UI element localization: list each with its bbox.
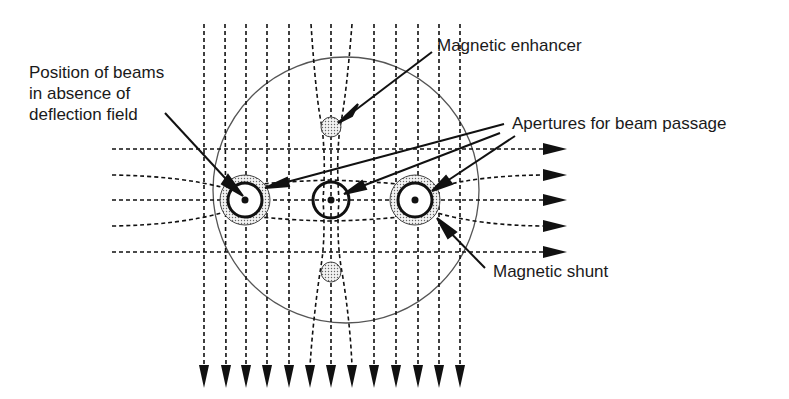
beam-position-line-1: Position of beams	[29, 62, 164, 83]
leader-lines	[165, 52, 515, 268]
apertures-label: Apertures for beam passage	[512, 113, 727, 134]
magnetic-enhancer-label: Magnetic enhancer	[437, 35, 582, 56]
right-arrowheads	[543, 143, 567, 258]
magnetic-enhancer-bottom	[321, 262, 341, 282]
deflection-field-diagram	[0, 0, 789, 399]
magnetic-shunt-label: Magnetic shunt	[493, 261, 608, 282]
beam-position-label: Position of beams in absence of deflecti…	[29, 62, 164, 125]
down-arrowheads	[199, 365, 465, 388]
beam-position-line-3: deflection field	[29, 104, 164, 125]
beam-position-line-2: in absence of	[29, 83, 164, 104]
right-beam	[390, 175, 440, 225]
magnetic-enhancer-top	[321, 117, 341, 137]
